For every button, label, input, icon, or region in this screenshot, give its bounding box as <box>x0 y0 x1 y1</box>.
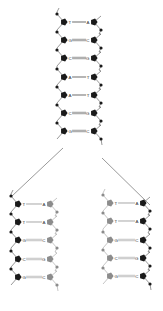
phosphate-icon <box>55 67 58 70</box>
replication-fork <box>12 148 150 205</box>
base-label: G <box>86 111 90 116</box>
phosphate-icon <box>101 248 104 251</box>
triple-hydrogen-bond <box>72 130 86 132</box>
base-label: A <box>136 201 139 206</box>
phosphate-icon <box>148 227 151 230</box>
phosphate-icon <box>55 12 58 15</box>
phosphate-icon <box>55 228 58 231</box>
base-label: G <box>69 129 73 134</box>
base-label: C <box>42 275 45 280</box>
phosphate-icon <box>99 83 102 86</box>
base-label: G <box>135 256 139 261</box>
double-hydrogen-bond <box>26 204 42 205</box>
phosphate-icon <box>99 119 102 122</box>
triple-hydrogen-bond <box>118 257 135 259</box>
phosphate-icon <box>55 48 58 51</box>
phosphate-icon <box>55 283 58 286</box>
phosphate-icon <box>55 265 58 268</box>
double-hydrogen-bond <box>72 22 86 23</box>
fork-line-right <box>102 158 150 205</box>
phosphate-icon <box>9 249 12 252</box>
base-label: A <box>87 20 90 25</box>
phosphate-icon <box>148 246 151 249</box>
daughter-helix-left: TATAGCCGGC <box>9 190 58 291</box>
base-label: A <box>136 219 139 224</box>
triple-hydrogen-bond <box>26 258 42 260</box>
phosphate-icon <box>55 103 58 106</box>
base-label: C <box>42 238 45 243</box>
triple-hydrogen-bond <box>72 112 86 114</box>
base-label: G <box>115 274 119 279</box>
dna-replication-diagram: TAGCCGATATCGGC TATAGCCGGC TATAGCCGGC <box>0 0 163 311</box>
base-label: G <box>42 257 46 262</box>
phosphate-icon <box>9 267 12 270</box>
triple-hydrogen-bond <box>72 39 86 41</box>
phosphate-icon <box>101 266 104 269</box>
phosphate-icon <box>9 230 12 233</box>
base-label: C <box>23 257 26 262</box>
phosphate-icon <box>9 194 12 197</box>
base-label: T <box>115 201 118 206</box>
phosphate-icon <box>55 30 58 33</box>
base-label: T <box>23 220 26 225</box>
daughter-helix-right: TATAGCCGGC <box>101 189 151 290</box>
phosphate-icon <box>55 121 58 124</box>
base-label: G <box>23 238 27 243</box>
phosphate-icon <box>101 230 104 233</box>
triple-hydrogen-bond <box>26 239 42 241</box>
phosphate-icon <box>99 46 102 49</box>
base-label: T <box>69 20 72 25</box>
base-label: G <box>69 38 73 43</box>
triple-hydrogen-bond <box>118 239 135 241</box>
phosphate-icon <box>99 137 102 140</box>
phosphate-icon <box>148 264 151 267</box>
triple-hydrogen-bond <box>26 276 42 278</box>
phosphate-icon <box>101 193 104 196</box>
phosphate-icon <box>55 210 58 213</box>
base-label: A <box>43 202 46 207</box>
base-label: C <box>86 129 89 134</box>
base-label: A <box>69 93 72 98</box>
base-label: G <box>23 275 27 280</box>
phosphate-icon <box>148 209 151 212</box>
base-label: T <box>115 219 118 224</box>
phosphate-icon <box>99 28 102 31</box>
phosphate-icon <box>55 246 58 249</box>
base-label: C <box>69 111 72 116</box>
double-hydrogen-bond <box>118 203 135 204</box>
base-label: A <box>69 75 72 80</box>
phosphate-icon <box>55 85 58 88</box>
phosphate-icon <box>101 211 104 214</box>
triple-hydrogen-bond <box>118 275 135 277</box>
double-hydrogen-bond <box>72 95 86 96</box>
triple-hydrogen-bond <box>72 57 86 59</box>
phosphate-icon <box>9 212 12 215</box>
base-label: C <box>135 274 138 279</box>
fork-line-left <box>12 148 63 196</box>
phosphate-icon <box>99 101 102 104</box>
double-hydrogen-bond <box>72 77 86 78</box>
base-label: T <box>23 202 26 207</box>
right-backbone <box>94 16 102 145</box>
phosphate-icon <box>148 282 151 285</box>
base-label: A <box>43 220 46 225</box>
base-label: C <box>135 238 138 243</box>
base-label: C <box>115 256 118 261</box>
base-label: G <box>86 56 90 61</box>
base-label: T <box>87 93 90 98</box>
double-hydrogen-bond <box>26 222 42 223</box>
base-label: C <box>69 56 72 61</box>
base-label: T <box>87 75 90 80</box>
phosphate-icon <box>99 64 102 67</box>
left-backbone <box>57 8 64 139</box>
base-label: G <box>115 238 119 243</box>
double-hydrogen-bond <box>118 221 135 222</box>
base-label: C <box>86 38 89 43</box>
parent-helix: TAGCCGATATCGGC <box>55 8 102 145</box>
